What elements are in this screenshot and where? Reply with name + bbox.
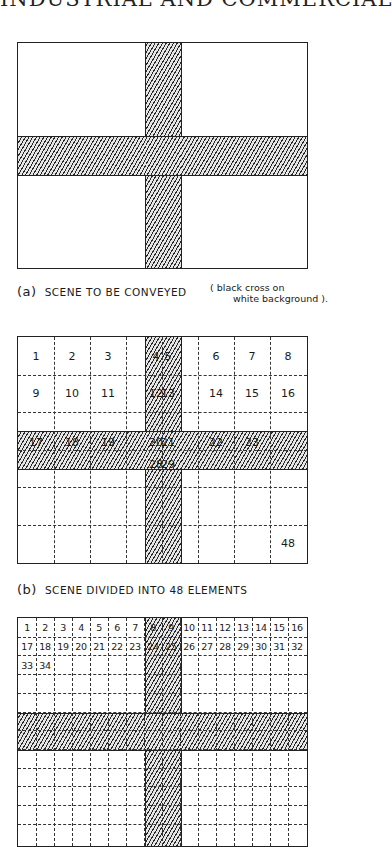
element-number: 4 (78, 622, 84, 633)
element-number: 27 (201, 641, 213, 652)
element-number: 10 (183, 622, 195, 633)
element-number: 16 (291, 622, 303, 633)
element-number: 22 (209, 435, 223, 448)
element-number: 25 (165, 641, 177, 652)
grid-row-divider (18, 730, 307, 731)
element-number: 23 (245, 435, 259, 448)
element-grid-b: 1234567891011121314151617181920212223282… (18, 337, 307, 563)
grid-column-divider (234, 618, 235, 846)
figure-b-48-elements: 1234567891011121314151617181920212223282… (17, 336, 308, 564)
grid-column-divider (198, 618, 199, 846)
grid-column-divider (108, 618, 109, 846)
element-number: 5 (96, 622, 102, 633)
element-number: 5 (165, 349, 172, 362)
figure-a-scene (17, 42, 308, 269)
element-number: 7 (249, 349, 256, 362)
element-number: 18 (39, 641, 51, 652)
page-header: INDUSTRIAL AND COMMERCIAL (0, 0, 336, 11)
element-number: 31 (273, 641, 285, 652)
element-grid-c: 1234567891011121314151617181920212223242… (18, 618, 307, 846)
grid-row-divider (18, 637, 307, 638)
grid-row-divider (18, 768, 307, 769)
figure-a-note: ( black cross on white background ). (210, 282, 328, 304)
element-number: 19 (57, 641, 69, 652)
grid-row-divider (18, 805, 307, 806)
element-number: 12 (219, 622, 231, 633)
figure-b-caption-text: SCENE DIVIDED INTO 48 ELEMENTS (45, 584, 247, 596)
grid-column-divider (144, 618, 145, 846)
element-number: 11 (101, 387, 115, 400)
element-number: 21 (161, 435, 175, 448)
grid-column-divider (90, 618, 91, 846)
grid-column-divider (162, 618, 163, 846)
figure-b-tag: (b) (17, 582, 37, 597)
element-number: 21 (93, 641, 105, 652)
element-number: 32 (291, 641, 303, 652)
element-number: 22 (111, 641, 123, 652)
element-number: 20 (75, 641, 87, 652)
element-number: 13 (237, 622, 249, 633)
element-number: 14 (209, 387, 223, 400)
grid-column-divider (36, 618, 37, 846)
element-number: 6 (114, 622, 120, 633)
element-number: 1 (33, 349, 40, 362)
element-number: 3 (105, 349, 112, 362)
element-number: 29 (161, 457, 175, 470)
figure-a-note-line2: white background ). (210, 293, 328, 304)
grid-row-divider (18, 693, 307, 694)
element-number: 26 (183, 641, 195, 652)
element-number: 15 (245, 387, 259, 400)
element-number: 10 (65, 387, 79, 400)
element-number: 13 (161, 387, 175, 400)
element-number: 7 (132, 622, 138, 633)
grid-row-divider (18, 655, 307, 656)
element-number: 28 (219, 641, 231, 652)
figure-a-tag: (a) (17, 284, 37, 299)
element-number: 24 (147, 641, 159, 652)
element-number: 14 (255, 622, 267, 633)
grid-row-divider (18, 487, 307, 488)
grid-row-divider (18, 450, 307, 451)
element-number: 3 (60, 622, 66, 633)
grid-row-divider (18, 375, 307, 376)
figure-a-caption-text: SCENE TO BE CONVEYED (45, 286, 187, 298)
element-number: 18 (65, 435, 79, 448)
grid-column-divider (72, 618, 73, 846)
element-number: 48 (281, 537, 295, 550)
element-number: 9 (33, 387, 40, 400)
figure-a-caption: (a)SCENE TO BE CONVEYED (17, 284, 187, 299)
figure-c-fine-elements: 1234567891011121314151617181920212223242… (17, 617, 308, 847)
element-number: 33 (21, 659, 33, 670)
grid-column-divider (252, 618, 253, 846)
figure-b-caption: (b)SCENE DIVIDED INTO 48 ELEMENTS (17, 582, 247, 597)
grid-row-divider (18, 749, 307, 750)
element-number: 4 (153, 349, 160, 362)
grid-row-divider (18, 712, 307, 713)
grid-row-divider (18, 674, 307, 675)
grid-column-divider (216, 618, 217, 846)
figure-a-note-line1: ( black cross on (210, 282, 328, 293)
element-number: 1 (24, 622, 30, 633)
element-number: 2 (42, 622, 48, 633)
cross-center (146, 137, 181, 175)
grid-column-divider (270, 618, 271, 846)
element-number: 30 (255, 641, 267, 652)
grid-row-divider (18, 786, 307, 787)
element-number: 19 (101, 435, 115, 448)
grid-column-divider (180, 618, 181, 846)
element-number: 17 (29, 435, 43, 448)
element-number: 8 (150, 622, 156, 633)
grid-row-divider (18, 525, 307, 526)
element-number: 29 (237, 641, 249, 652)
element-number: 23 (129, 641, 141, 652)
element-number: 9 (168, 622, 174, 633)
grid-column-divider (54, 618, 55, 846)
element-number: 16 (281, 387, 295, 400)
grid-column-divider (126, 618, 127, 846)
element-number: 15 (273, 622, 285, 633)
element-number: 34 (39, 659, 51, 670)
element-number: 17 (21, 641, 33, 652)
element-number: 8 (285, 349, 292, 362)
grid-column-divider (288, 618, 289, 846)
element-number: 2 (69, 349, 76, 362)
